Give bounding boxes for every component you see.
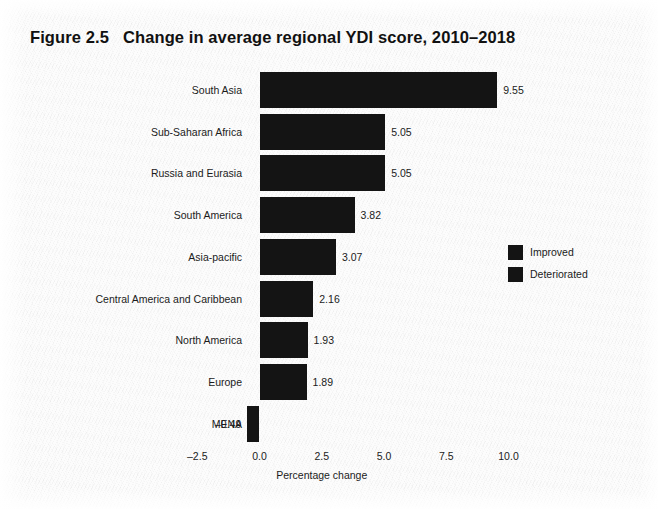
bar-row: Russia and Eurasia5.05 [0, 155, 658, 191]
legend-label: Deteriorated [530, 269, 588, 280]
bar-row: North America1.93 [0, 322, 658, 358]
bar-value-label: 2.16 [319, 294, 339, 305]
bar-row: Sub-Saharan Africa5.05 [0, 114, 658, 150]
bar-row: Europe1.89 [0, 364, 658, 400]
x-axis-tick-label: 0.0 [252, 450, 267, 462]
bar-value-label: 1.89 [313, 377, 333, 388]
legend-item[interactable]: Deteriorated [508, 267, 588, 282]
category-label: Europe [208, 377, 242, 388]
bar-row: South Asia9.55 [0, 72, 658, 108]
bar[interactable] [260, 197, 355, 233]
x-axis-tick-label: 2.5 [314, 450, 329, 462]
bar-value-label: –0.49 [215, 419, 241, 430]
x-axis-tick-label: 7.5 [439, 450, 454, 462]
figure-page: Figure 2.5 Change in average regional YD… [0, 0, 658, 509]
legend-item[interactable]: Improved [508, 245, 588, 260]
bar-row: MENA–0.49 [0, 406, 658, 442]
x-axis-tick-label: 10.0 [498, 450, 518, 462]
x-axis-tick-label: 5.0 [377, 450, 392, 462]
x-axis-tick-label: –2.5 [187, 450, 207, 462]
bar-value-label: 5.05 [391, 127, 411, 138]
bar-value-label: 9.55 [503, 85, 523, 96]
legend-label: Improved [530, 247, 574, 258]
category-label: South Asia [192, 85, 242, 96]
bar-value-label: 3.82 [361, 210, 381, 221]
bar-value-label: 3.07 [342, 252, 362, 263]
bar[interactable] [260, 239, 336, 275]
bar[interactable] [260, 72, 498, 108]
bar[interactable] [260, 364, 307, 400]
bar-value-label: 1.93 [314, 335, 334, 346]
bar[interactable] [247, 406, 259, 442]
category-label: Russia and Eurasia [151, 168, 242, 179]
bar[interactable] [260, 114, 386, 150]
category-label: Asia-pacific [188, 252, 242, 263]
chart-legend: ImprovedDeteriorated [508, 245, 588, 289]
category-label: South America [174, 210, 242, 221]
category-label: Sub-Saharan Africa [151, 127, 242, 138]
legend-swatch-icon [508, 267, 523, 282]
category-label: North America [175, 335, 242, 346]
category-label: Central America and Caribbean [96, 294, 243, 305]
bar-row: South America3.82 [0, 197, 658, 233]
bar[interactable] [260, 322, 308, 358]
x-axis-title: Percentage change [276, 469, 367, 481]
bar[interactable] [260, 281, 314, 317]
legend-swatch-icon [508, 245, 523, 260]
bar[interactable] [260, 155, 386, 191]
bar-value-label: 5.05 [391, 168, 411, 179]
